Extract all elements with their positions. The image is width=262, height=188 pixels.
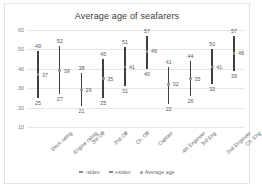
data-label-average: 32	[173, 81, 179, 87]
series-group: 382129	[71, 30, 93, 127]
plot-area: 605040302010492537Deck rating522739Engin…	[27, 30, 245, 127]
data-label-upper: 57	[231, 28, 237, 34]
series-group: 574049	[136, 30, 158, 127]
data-label-lower: 21	[78, 108, 84, 114]
data-label-upper: 51	[122, 39, 128, 45]
x-axis-category-label: Ch. Off	[134, 130, 150, 145]
y-axis-tick-label: 60	[18, 27, 24, 33]
legend-dot-icon	[140, 171, 143, 174]
data-label-upper: 57	[144, 28, 150, 34]
data-label-average: 39	[64, 68, 70, 74]
series-group: 573948	[223, 30, 245, 127]
data-label-average: 41	[216, 64, 222, 70]
data-label-lower: 26	[187, 98, 193, 104]
average-marker	[233, 52, 236, 55]
data-label-lower: 31	[122, 88, 128, 94]
data-label-average: 35	[194, 76, 200, 82]
chart-legend: -stdev+stdevAverage age	[5, 169, 249, 175]
y-axis-tick-label: 10	[18, 124, 24, 130]
gridline	[27, 127, 245, 128]
data-label-lower: 27	[57, 96, 63, 102]
chart-title: Average age of seafarers	[5, 11, 249, 21]
x-axis-category-label: Deck rating	[49, 130, 73, 152]
average-marker	[58, 69, 61, 72]
chart-container: Average age of seafarers 605040302010492…	[4, 3, 250, 184]
series-group: 442635	[180, 30, 202, 127]
series-group: 452535	[92, 30, 114, 127]
legend-item[interactable]: +stdev	[109, 169, 131, 175]
data-label-upper: 44	[187, 53, 193, 59]
legend-dash-icon	[109, 171, 113, 172]
average-marker	[167, 83, 170, 86]
data-label-lower: 25	[100, 100, 106, 106]
data-label-average: 29	[85, 87, 91, 93]
data-label-upper: 50	[209, 41, 215, 47]
data-label-lower: 25	[35, 100, 41, 106]
average-marker	[102, 77, 105, 80]
data-label-lower: 39	[231, 73, 237, 79]
legend-item[interactable]: Average age	[140, 169, 175, 175]
legend-label: -stdev	[85, 169, 99, 175]
series-group: 522739	[49, 30, 71, 127]
data-label-lower: 22	[166, 106, 172, 112]
y-axis-tick-label: 50	[18, 46, 24, 52]
legend-dash-icon	[79, 171, 83, 172]
data-label-upper: 41	[166, 59, 172, 65]
y-axis-tick-label: 20	[18, 105, 24, 111]
average-marker	[124, 66, 127, 69]
legend-label: Average age	[145, 169, 175, 175]
average-marker	[211, 66, 214, 69]
average-marker	[189, 77, 192, 80]
data-label-upper: 38	[78, 65, 84, 71]
y-axis-tick-label: 40	[18, 66, 24, 72]
data-label-lower: 32	[209, 86, 215, 92]
data-label-upper: 45	[100, 51, 106, 57]
legend-item[interactable]: -stdev	[79, 169, 99, 175]
data-label-average: 35	[107, 76, 113, 82]
data-label-average: 41	[129, 64, 135, 70]
data-label-upper: 52	[57, 38, 63, 44]
series-group: 412232	[158, 30, 180, 127]
data-label-average: 48	[238, 50, 244, 56]
series-group: 513141	[114, 30, 136, 127]
data-label-lower: 40	[144, 71, 150, 77]
data-label-average: 37	[42, 72, 48, 78]
average-marker	[37, 73, 40, 76]
y-axis-tick-label: 30	[18, 85, 24, 91]
data-label-upper: 49	[35, 43, 41, 49]
series-group: 503241	[201, 30, 223, 127]
x-axis-category-label: 2nd Off	[112, 130, 129, 146]
x-axis-category-label: Captain	[156, 130, 173, 146]
data-label-average: 49	[151, 48, 157, 54]
average-marker	[146, 50, 149, 53]
legend-label: +stdev	[115, 169, 131, 175]
series-group: 492537	[27, 30, 49, 127]
